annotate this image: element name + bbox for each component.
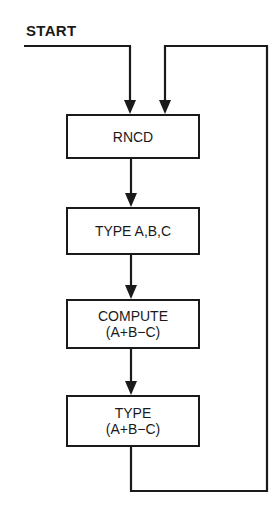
step-type-result-box: TYPE (A+B−C): [66, 395, 200, 447]
start-connector: [24, 46, 136, 114]
step-type-result-line-1: TYPE: [115, 405, 152, 421]
step-type-result-line-2: (A+B−C): [106, 421, 160, 437]
connector-rncd-to-type: [125, 157, 137, 207]
step-compute-line-2: (A+B−C): [106, 324, 160, 340]
step-rncd-box: RNCD: [66, 114, 200, 159]
connector-type-to-compute: [125, 253, 137, 299]
step-rncd-text: RNCD: [113, 129, 153, 145]
step-compute-box: COMPUTE (A+B−C): [66, 299, 200, 349]
start-label: START: [26, 22, 76, 39]
step-type-abc-text: TYPE A,B,C: [95, 223, 171, 239]
step-type-abc-box: TYPE A,B,C: [66, 207, 200, 255]
arrow-down-icon: [159, 100, 171, 114]
arrow-down-icon: [125, 193, 137, 207]
step-compute-line-1: COMPUTE: [98, 308, 168, 324]
arrow-down-icon: [124, 100, 136, 114]
flowchart: START RNCD TYPE A,B,C COMPUTE (A+B−C) TY…: [0, 0, 280, 508]
connector-compute-to-output: [125, 347, 137, 395]
arrow-down-icon: [125, 285, 137, 299]
arrow-down-icon: [125, 381, 137, 395]
